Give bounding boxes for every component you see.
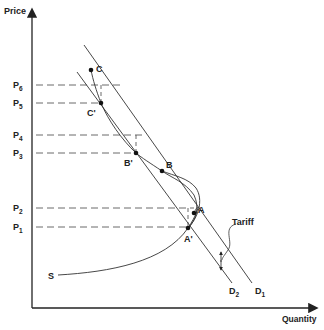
point-label-b: B <box>166 160 173 170</box>
equilibrium-points: CC'B'BAA' <box>87 64 205 244</box>
price-label-p5: P5 <box>13 98 23 110</box>
supply-curve <box>58 70 198 275</box>
point-label-b-prime: B' <box>124 158 133 168</box>
point-a <box>192 211 197 216</box>
point-c-prime <box>99 101 104 106</box>
point-c <box>89 68 94 73</box>
point-label-c-prime: C' <box>87 108 96 118</box>
price-label-p6: P6 <box>13 80 23 92</box>
point-label-c: C <box>96 64 103 74</box>
tariff-label: Tariff <box>232 217 255 227</box>
tariff-leader-line <box>222 224 236 260</box>
y-axis-label: Price <box>4 6 26 16</box>
point-label-a-prime: A' <box>184 234 193 244</box>
price-label-p4: P4 <box>13 130 23 142</box>
price-level-lines: P6P5P4P3P2P1 <box>13 80 194 234</box>
demand-label-d1: D1 <box>255 286 266 298</box>
x-axis-label: Quantity <box>282 314 317 324</box>
supply-label: S <box>48 271 54 281</box>
point-a-prime <box>186 226 191 231</box>
point-b-prime <box>134 151 139 156</box>
price-label-p2: P2 <box>13 203 23 215</box>
point-label-a: A <box>198 205 205 215</box>
price-label-p1: P1 <box>13 222 23 234</box>
price-label-p3: P3 <box>13 148 23 160</box>
demand-label-d2: D2 <box>229 286 240 298</box>
point-b <box>160 169 165 174</box>
tariff-supply-demand-diagram: Price Quantity P6P5P4P3P2P1 D1D2 S CC'B'… <box>0 0 324 330</box>
supply-curve-bulge <box>162 171 200 228</box>
demand-curves: D1D2 <box>77 45 266 298</box>
